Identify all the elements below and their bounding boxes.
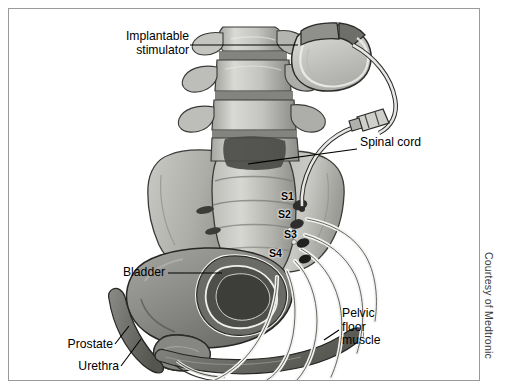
label-implantable-stimulator: Implantable stimulator — [71, 30, 189, 57]
spinal-cord-shadow — [223, 136, 286, 170]
label-prostate: Prostate — [35, 338, 113, 352]
implantable-pulse-generator — [292, 23, 371, 91]
label-foramen-s3: S3 — [284, 229, 297, 240]
figure-root: Implantable stimulator Spinal cord Bladd… — [0, 0, 527, 390]
inline-lead-connector — [349, 109, 389, 131]
label-foramen-s2: S2 — [278, 209, 291, 220]
figure-frame: Implantable stimulator Spinal cord Bladd… — [8, 8, 480, 381]
bladder-cutaway — [126, 248, 292, 348]
label-foramen-s4: S4 — [269, 248, 282, 259]
label-urethra: Urethra — [41, 360, 119, 374]
label-pelvic-floor-muscle: Pelvic floor muscle — [342, 307, 381, 348]
label-bladder: Bladder — [81, 266, 165, 280]
label-foramen-s1: S1 — [281, 191, 294, 202]
label-spinal-cord: Spinal cord — [360, 136, 421, 150]
credit-text: Courtesy of Medtronic — [483, 252, 495, 382]
anatomical-illustration — [9, 9, 479, 380]
